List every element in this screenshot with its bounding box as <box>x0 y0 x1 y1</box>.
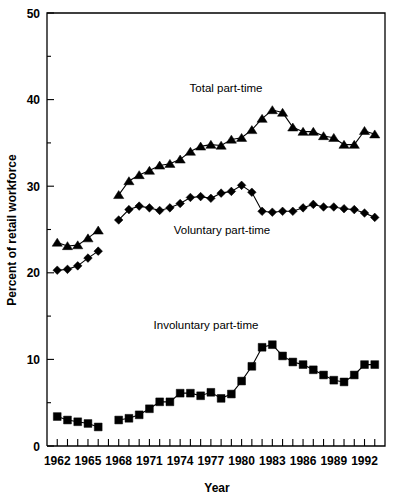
data-point-diamond <box>73 262 82 271</box>
data-point-diamond <box>329 203 338 212</box>
data-point-square <box>64 416 72 424</box>
data-point-triangle <box>52 238 62 246</box>
data-point-square <box>125 414 133 422</box>
data-point-square <box>320 371 328 379</box>
y-tick-label: 30 <box>27 180 41 194</box>
retail-part-time-chart: 01020304050 1962196519681971197419771980… <box>0 0 400 504</box>
y-tick-label: 10 <box>27 353 41 367</box>
data-point-diamond <box>207 194 216 203</box>
data-point-triangle <box>267 106 277 114</box>
x-tick-label: 1974 <box>167 454 194 468</box>
data-point-square <box>166 398 174 406</box>
data-point-diamond <box>289 207 298 216</box>
data-point-diamond <box>299 204 308 213</box>
data-point-square <box>268 341 276 349</box>
data-point-diamond <box>166 204 175 213</box>
data-point-diamond <box>248 188 257 197</box>
data-point-diamond <box>145 204 154 213</box>
data-point-square <box>371 361 379 369</box>
data-point-square <box>176 389 184 397</box>
data-point-triangle <box>165 159 175 167</box>
data-point-triangle <box>277 108 287 116</box>
data-point-square <box>361 361 369 369</box>
data-point-diamond <box>360 209 369 218</box>
data-point-square <box>340 378 348 386</box>
data-point-diamond <box>258 207 267 216</box>
data-point-triangle <box>134 171 144 179</box>
data-point-diamond <box>155 206 164 215</box>
data-point-diamond <box>63 265 72 274</box>
y-axis-title: Percent of retail workforce <box>5 154 19 306</box>
data-point-triangle <box>114 191 124 199</box>
x-tick-label: 1968 <box>105 454 132 468</box>
data-point-triangle <box>206 140 216 148</box>
x-tick-label: 1986 <box>290 454 317 468</box>
data-point-triangle <box>144 166 154 174</box>
y-axis-tick-labels: 01020304050 <box>27 7 41 454</box>
data-point-triangle <box>359 126 369 134</box>
y-tick-label: 0 <box>33 440 40 454</box>
data-point-triangle <box>247 126 257 134</box>
series-annotation: Voluntary part-time <box>174 224 271 236</box>
data-point-diamond <box>217 189 226 198</box>
y-tick-label: 40 <box>27 93 41 107</box>
data-point-triangle <box>73 241 83 249</box>
x-tick-label: 1971 <box>136 454 163 468</box>
data-point-diamond <box>278 207 287 216</box>
data-point-triangle <box>318 132 328 140</box>
data-point-diamond <box>196 192 205 201</box>
y-tick-label: 50 <box>27 7 41 21</box>
x-tick-label: 1992 <box>351 454 378 468</box>
data-point-square <box>227 390 235 398</box>
x-tick-label: 1980 <box>228 454 255 468</box>
data-point-square <box>309 366 317 374</box>
data-point-diamond <box>53 266 62 275</box>
x-axis-ticks <box>57 439 375 446</box>
data-point-square <box>258 343 266 351</box>
data-point-square <box>186 389 194 397</box>
data-point-square <box>84 420 92 428</box>
data-point-diamond <box>176 199 185 208</box>
series-line <box>119 185 375 220</box>
data-point-square <box>156 398 164 406</box>
data-point-square <box>115 416 123 424</box>
data-point-diamond <box>319 203 328 212</box>
data-point-triangle <box>370 130 380 138</box>
data-point-diamond <box>268 208 277 217</box>
data-point-square <box>330 376 338 384</box>
data-point-diamond <box>94 247 103 256</box>
data-point-triangle <box>93 226 103 234</box>
series-line <box>119 110 375 195</box>
data-point-square <box>299 361 307 369</box>
data-point-square <box>53 413 61 421</box>
data-point-square <box>289 358 297 366</box>
data-point-square <box>135 411 143 419</box>
data-point-square <box>350 371 358 379</box>
series-annotation: Involuntary part-time <box>154 319 259 331</box>
series-involuntary-part-time <box>53 341 378 431</box>
data-point-diamond <box>350 205 359 214</box>
data-series <box>52 106 380 431</box>
x-tick-label: 1977 <box>198 454 225 468</box>
x-axis-title: Year <box>204 481 230 495</box>
data-point-diamond <box>237 181 246 190</box>
chart-page: 01020304050 1962196519681971197419771980… <box>0 0 400 504</box>
data-point-diamond <box>186 193 195 202</box>
data-point-diamond <box>340 204 349 213</box>
data-point-square <box>207 388 215 396</box>
data-point-diamond <box>135 202 144 211</box>
data-point-diamond <box>227 187 236 196</box>
data-point-square <box>74 418 82 426</box>
data-point-square <box>279 352 287 360</box>
data-point-square <box>197 392 205 400</box>
y-tick-label: 20 <box>27 266 41 280</box>
data-point-diamond <box>309 200 318 209</box>
y-axis-ticks <box>47 13 54 446</box>
data-point-square <box>146 405 154 413</box>
x-axis-tick-labels: 1962196519681971197419771980198319861989… <box>44 454 378 468</box>
data-point-triangle <box>185 147 195 155</box>
data-point-diamond <box>84 254 93 263</box>
x-tick-label: 1989 <box>320 454 347 468</box>
data-point-square <box>238 377 246 385</box>
series-annotation: Total part-time <box>190 82 263 94</box>
